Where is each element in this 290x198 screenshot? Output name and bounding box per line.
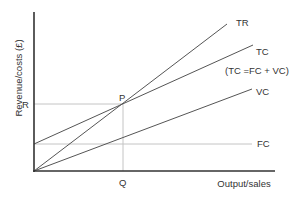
tr-label: TR [236, 17, 249, 28]
vc-line [34, 89, 252, 171]
fc-label: FC [257, 138, 270, 149]
r-label: R [22, 99, 29, 110]
p-label: P [119, 92, 125, 103]
vc-label: VC [256, 86, 269, 97]
q-label: Q [119, 177, 126, 188]
x-axis-label: Output/sales [217, 178, 271, 189]
tr-line [34, 24, 227, 171]
tc-label: TC [256, 46, 269, 57]
break-even-chart: Revenue/costs (£) Output/sales TR TC (TC… [0, 0, 290, 198]
tc-formula-label: (TC =FC + VC) [225, 65, 289, 76]
tc-line [34, 45, 253, 144]
